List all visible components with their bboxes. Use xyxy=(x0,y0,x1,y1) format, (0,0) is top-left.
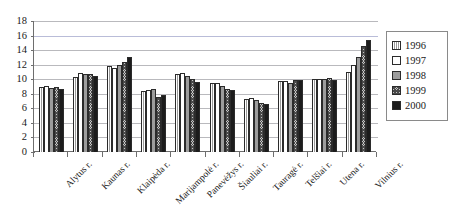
y-tick-label: 18 xyxy=(17,16,28,26)
bar-group xyxy=(346,21,371,152)
y-tick-label: 16 xyxy=(17,31,28,41)
legend-swatch-icon xyxy=(392,56,401,65)
legend-label: 1997 xyxy=(405,55,426,66)
x-axis-label: Telšiai r. xyxy=(304,159,334,189)
legend-label: 1996 xyxy=(405,40,426,51)
bar-group xyxy=(39,21,64,152)
y-tick-label: 12 xyxy=(17,60,28,70)
bar-2000 xyxy=(127,57,132,152)
bar-chart-figure: 181614121086420 Alytus r.Kaunas r.Klaipė… xyxy=(0,0,454,224)
legend-item-1996: 1996 xyxy=(392,40,443,51)
y-tick-label: 2 xyxy=(22,132,27,142)
x-axis-label: Tauragė r. xyxy=(271,159,305,193)
bar-group xyxy=(312,21,337,152)
bar-2000 xyxy=(332,80,337,152)
legend-item-1999: 1999 xyxy=(392,85,443,96)
bar-2000 xyxy=(298,80,303,152)
legend-item-1997: 1997 xyxy=(392,55,443,66)
bar-2000 xyxy=(59,89,64,152)
legend-item-2000: 2000 xyxy=(392,100,443,111)
chart-legend: 19961997199819992000 xyxy=(386,31,448,121)
x-axis-label: Klaipėda r. xyxy=(135,159,172,196)
bar-group xyxy=(107,21,132,152)
legend-label: 1999 xyxy=(405,85,426,96)
legend-item-1998: 1998 xyxy=(392,70,443,81)
bar-2000 xyxy=(93,76,98,152)
bar-2000 xyxy=(195,82,200,152)
x-axis-label: Vilnius r. xyxy=(373,159,405,191)
x-axis-labels: Alytus r.Kaunas r.Klaipėda r.Marijampolė… xyxy=(0,155,380,221)
y-tick-label: 8 xyxy=(22,89,27,99)
x-axis-label: Alytus r. xyxy=(64,159,94,189)
bar-group xyxy=(141,21,166,152)
bar-group xyxy=(210,21,235,152)
bars-layer xyxy=(34,21,376,152)
bar-2000 xyxy=(366,40,371,152)
bar-2000 xyxy=(230,90,235,152)
y-tick-label: 10 xyxy=(17,74,28,84)
legend-swatch-icon xyxy=(392,71,401,80)
y-tick-label: 14 xyxy=(17,45,28,55)
y-axis: 181614121086420 xyxy=(0,14,31,152)
bar-group xyxy=(244,21,269,152)
legend-swatch-icon xyxy=(392,101,401,110)
legend-swatch-icon xyxy=(392,41,401,50)
x-axis-label: Kaunas r. xyxy=(99,159,131,191)
bar-2000 xyxy=(161,95,166,152)
bar-group xyxy=(175,21,200,152)
y-tick-label: 4 xyxy=(22,118,27,128)
legend-swatch-icon xyxy=(392,86,401,95)
x-axis-label: Utena r. xyxy=(337,159,365,187)
bar-group xyxy=(278,21,303,152)
legend-label: 1998 xyxy=(405,70,426,81)
legend-label: 2000 xyxy=(405,100,426,111)
y-tick-label: 6 xyxy=(22,103,27,113)
bar-group xyxy=(73,21,98,152)
bar-2000 xyxy=(264,104,269,152)
